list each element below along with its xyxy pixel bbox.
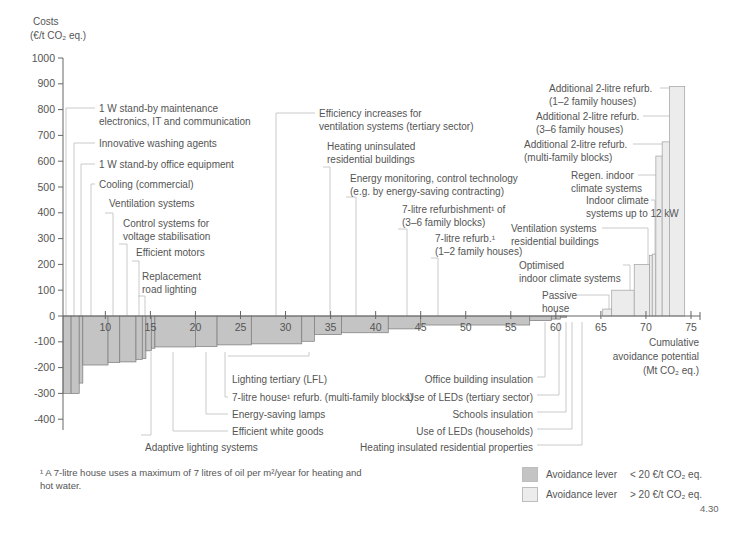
y-tick-label: 0 xyxy=(49,310,55,322)
annotation-label: ventilation systems (tertiary sector) xyxy=(319,121,474,132)
legend-item-high-cost: Avoidance lever > 20 €/t CO₂ eq. xyxy=(522,485,702,503)
bar xyxy=(603,309,612,316)
annotation-label: Additional 2-litre refurb. xyxy=(536,111,639,122)
annotation-label: Ventilation systems xyxy=(109,198,195,209)
annotation-leader xyxy=(74,143,95,316)
annotation-leader xyxy=(537,322,572,429)
annotation-label: residential buildings xyxy=(327,154,415,165)
annotation-label: Additional 2-litre refurb. xyxy=(549,83,652,94)
annotation-leader xyxy=(323,167,330,316)
legend-label: Avoidance lever xyxy=(546,469,630,480)
y-axis-title: Costs (€/t CO₂ eq.) xyxy=(30,16,86,41)
annotation-leader xyxy=(225,352,228,397)
annotation-leader xyxy=(228,352,309,356)
y-tick-label: 1000 xyxy=(32,52,56,64)
bar xyxy=(71,316,79,393)
figure-number: 4.30 xyxy=(700,503,719,514)
y-tick-label: 600 xyxy=(37,155,55,167)
annotation-label: 7-litre refurb.¹ xyxy=(435,233,496,244)
bar xyxy=(79,316,83,383)
annotation-leader xyxy=(398,229,407,316)
annotation-label: voltage stabilisation xyxy=(123,231,210,242)
annotation-label: 7-litre house¹ refurb. (multi-family blo… xyxy=(232,392,413,403)
annotation-label: Use of LEDs (tertiary sector) xyxy=(407,392,533,403)
legend-range: > 20 €/t CO₂ eq. xyxy=(630,489,702,500)
y-tick-label: 300 xyxy=(37,232,55,244)
bar xyxy=(251,316,301,344)
y-tick-label: -100 xyxy=(34,335,55,347)
annotation-label: Office building insulation xyxy=(425,374,533,385)
bar xyxy=(650,255,653,316)
x-tick-label: 75 xyxy=(685,321,697,333)
annotation-label: Replacement xyxy=(142,271,201,282)
x-tick-label: 45 xyxy=(415,321,427,333)
annotation-label: (3–6 family houses) xyxy=(536,124,623,135)
annotation-label: climate systems xyxy=(571,183,642,194)
annotation-leader xyxy=(276,113,315,316)
annotation-label: Adaptive lighting systems xyxy=(145,442,258,453)
x-tick-label: 20 xyxy=(190,321,202,333)
bar xyxy=(136,316,142,359)
y-tick-label: 500 xyxy=(37,181,55,193)
y-tick-label: 400 xyxy=(37,206,55,218)
annotation-leader xyxy=(537,322,566,412)
bar xyxy=(612,290,635,316)
y-tick-label: 900 xyxy=(37,77,55,89)
annotation-leader xyxy=(91,184,95,316)
annotation-label: Efficiency increases for xyxy=(319,108,422,119)
annotation-label: Innovative washing agents xyxy=(99,138,217,149)
annotation-leader xyxy=(173,352,228,431)
y-tick-label: -200 xyxy=(34,361,55,373)
annotation-leader xyxy=(537,322,582,445)
y-axis-title-line2: (€/t CO₂ eq.) xyxy=(30,30,86,41)
x-axis-title-line: avoidance potential xyxy=(613,351,699,362)
annotation-label: Schools insulation xyxy=(452,409,533,420)
bar xyxy=(120,316,136,362)
annotation-label: (1–2 family houses) xyxy=(549,96,636,107)
legend: Avoidance lever < 20 €/t CO₂ eq. Avoidan… xyxy=(522,465,702,505)
annotation-label: residential buildings xyxy=(511,236,599,247)
annotation-leader xyxy=(537,322,545,377)
legend-label: Avoidance lever xyxy=(546,489,630,500)
annotation-leader xyxy=(431,258,438,316)
bar xyxy=(530,316,552,321)
annotation-leader xyxy=(81,164,95,316)
x-axis-title-line: Cumulative xyxy=(649,337,699,348)
bar xyxy=(656,156,662,316)
annotation-label: (1–2 family houses) xyxy=(435,246,522,257)
x-tick-label: 60 xyxy=(550,321,562,333)
x-tick-label: 70 xyxy=(640,321,652,333)
x-tick-label: 30 xyxy=(280,321,292,333)
annotation-label: Efficient motors xyxy=(136,247,205,258)
annotation-leader xyxy=(119,244,127,316)
legend-swatch-low xyxy=(522,467,538,482)
annotation-label: (e.g. by energy-saving contracting) xyxy=(350,186,504,197)
annotation-label: Efficient white goods xyxy=(232,426,324,437)
bar xyxy=(302,316,315,341)
annotations: 1 W stand-by maintenanceelectronics, IT … xyxy=(99,83,679,453)
annotation-label: Optimised xyxy=(519,260,564,271)
annotation-label: Cooling (commercial) xyxy=(99,179,193,190)
annotation-label: 7-litre refurbishment¹ of xyxy=(402,204,506,215)
y-tick-label: 200 xyxy=(37,258,55,270)
legend-range: < 20 €/t CO₂ eq. xyxy=(630,469,702,480)
annotation-leader xyxy=(132,261,139,316)
annotation-leader xyxy=(105,213,113,316)
x-tick-label: 50 xyxy=(460,321,472,333)
y-tick-label: -300 xyxy=(34,387,55,399)
x-tick-label: 10 xyxy=(100,321,112,333)
annotation-label: electronics, IT and communication xyxy=(99,116,251,127)
annotation-label: Use of LEDs (households) xyxy=(416,426,533,437)
annotation-label: Heating insulated residential properties xyxy=(360,442,533,453)
y-axis-title-line1: Costs xyxy=(33,16,59,27)
annotation-label: Energy monitoring, control technology xyxy=(350,173,518,184)
annotation-label: Additional 2-litre refurb. xyxy=(524,139,627,150)
annotation-label: Lighting tertiary (LFL) xyxy=(232,374,327,385)
legend-swatch-high xyxy=(522,487,538,502)
annotation-label: (3–6 family blocks) xyxy=(402,217,485,228)
x-tick-label: 40 xyxy=(370,321,382,333)
annotation-label: systems up to 12 kW xyxy=(586,208,679,219)
annotation-label: Heating uninsulated xyxy=(327,141,415,152)
annotation-label: 1 W stand-by office equipment xyxy=(99,159,234,170)
annotation-label: Energy-saving lamps xyxy=(232,409,325,420)
